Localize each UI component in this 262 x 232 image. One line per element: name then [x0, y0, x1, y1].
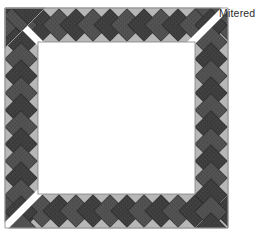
mask-right: [229, 0, 262, 232]
mask-top: [0, 0, 262, 7]
mitered-border-illustration: [0, 0, 262, 232]
diagram-canvas: Mitered: [0, 0, 262, 232]
mitered-label: Mitered: [219, 7, 255, 19]
mask-left: [0, 0, 4, 232]
mask-bottom: [0, 229, 262, 232]
quilt-center-field: [38, 42, 195, 194]
